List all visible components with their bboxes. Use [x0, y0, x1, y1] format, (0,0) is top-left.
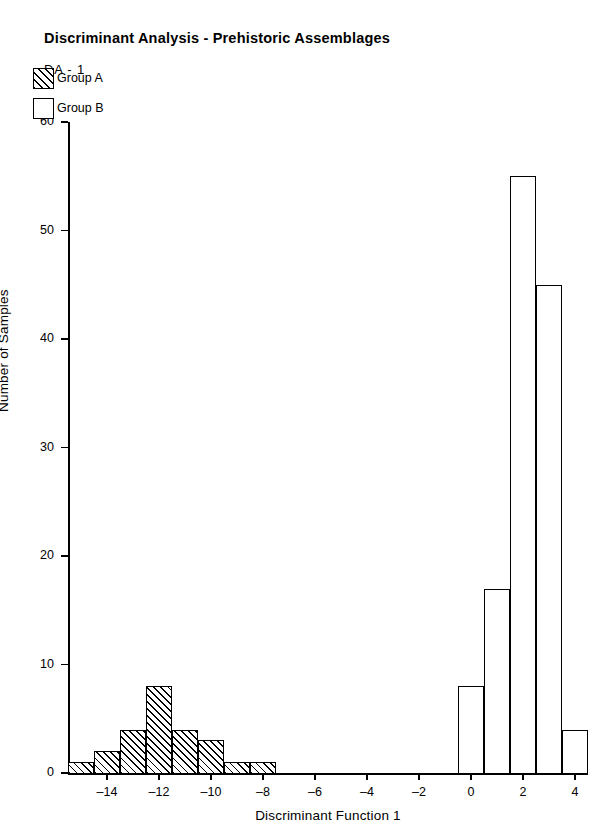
- x-axis-tick-label: –8: [240, 785, 286, 799]
- bar: [68, 762, 94, 774]
- x-axis-tick: [470, 773, 471, 780]
- empty-square-icon: [33, 98, 54, 119]
- y-axis-tick: [61, 338, 68, 339]
- x-axis-tick: [574, 773, 575, 780]
- x-axis-tick-label: –10: [188, 785, 234, 799]
- y-axis-line: [68, 122, 70, 773]
- x-axis-title: Discriminant Function 1: [68, 808, 588, 823]
- legend-item-group-b: Group B: [33, 93, 104, 123]
- x-axis-tick-label: 2: [500, 785, 546, 799]
- y-axis-title: Number of Samples: [0, 289, 11, 412]
- bar: [536, 285, 562, 774]
- bar: [172, 730, 198, 774]
- x-axis-tick-label: –14: [84, 785, 130, 799]
- x-axis-tick: [210, 773, 211, 780]
- y-axis-tick: [61, 664, 68, 665]
- page-title: Discriminant Analysis - Prehistoric Asse…: [44, 30, 390, 46]
- legend: Group A Group B: [33, 63, 104, 123]
- bar: [224, 762, 250, 774]
- bar: [120, 730, 146, 774]
- bar: [458, 686, 484, 774]
- y-axis-tick-label: 10: [0, 658, 54, 671]
- y-axis-tick-label: 0: [0, 766, 54, 779]
- bar: [146, 686, 172, 774]
- y-axis-tick-label: 30: [0, 441, 54, 454]
- x-axis-tick: [522, 773, 523, 780]
- x-axis-tick-label: –2: [396, 785, 442, 799]
- y-axis-tick: [61, 230, 68, 231]
- bar: [484, 589, 510, 774]
- x-axis-tick: [158, 773, 159, 780]
- legend-item-group-a: Group A: [33, 63, 104, 93]
- bar: [94, 751, 120, 774]
- hatched-square-icon: [33, 68, 54, 89]
- bar: [198, 740, 224, 774]
- plot-area: 0102030405060 –14–12–10–8–6–4–2024 Discr…: [68, 122, 588, 773]
- y-axis-tick-label: 50: [0, 224, 54, 237]
- y-axis-tick-label: 20: [0, 549, 54, 562]
- legend-item-label: Group A: [57, 71, 103, 85]
- x-axis-tick: [418, 773, 419, 780]
- x-axis-tick-label: –4: [344, 785, 390, 799]
- bar: [250, 762, 276, 774]
- x-axis-tick-label: –6: [292, 785, 338, 799]
- bar: [510, 176, 536, 774]
- y-axis-tick: [61, 772, 68, 773]
- x-axis-tick-label: 4: [552, 785, 598, 799]
- x-axis-tick: [106, 773, 107, 780]
- chart-figure: Discriminant Analysis - Prehistoric Asse…: [0, 0, 598, 832]
- bar: [562, 730, 588, 774]
- x-axis-tick: [366, 773, 367, 780]
- x-axis-tick-label: 0: [448, 785, 494, 799]
- x-axis-tick: [314, 773, 315, 780]
- legend-item-label: Group B: [57, 101, 104, 115]
- x-axis-tick: [262, 773, 263, 780]
- y-axis-tick: [61, 555, 68, 556]
- x-axis-tick-label: –12: [136, 785, 182, 799]
- y-axis-tick: [61, 447, 68, 448]
